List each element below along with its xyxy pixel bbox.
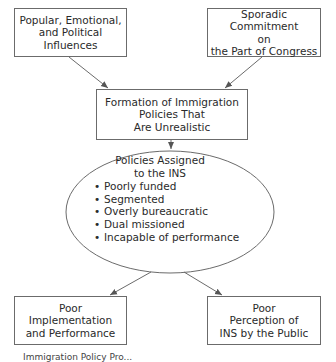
bullet-icon: • bbox=[94, 218, 100, 231]
node-label: Poor Implementation and Performance bbox=[26, 302, 116, 340]
node-poor-perception: Poor Perception of INS by the Public bbox=[207, 296, 321, 345]
node-sporadic-commitment: Sporadic Commitment on the Part of Congr… bbox=[207, 8, 321, 57]
list-item: •Segmented bbox=[94, 193, 254, 206]
bullet-icon: • bbox=[94, 205, 100, 218]
arrow-policies-to-perception bbox=[184, 272, 222, 295]
arrow-commitment-to-formation bbox=[225, 57, 262, 88]
list-item: •Incapable of performance bbox=[94, 231, 254, 244]
node-label: Popular, Emotional, and Political Influe… bbox=[19, 14, 121, 52]
arrow-influences-to-formation bbox=[69, 57, 108, 88]
list-item: •Overly bureaucratic bbox=[94, 205, 254, 218]
ellipse-title: Policies Assigned to the INS bbox=[66, 154, 254, 179]
list-item: •Dual missioned bbox=[94, 218, 254, 231]
node-label: Formation of Immigration Policies That A… bbox=[105, 96, 239, 134]
policy-list: •Poorly funded •Segmented •Overly bureau… bbox=[66, 180, 254, 243]
node-poor-implementation: Poor Implementation and Performance bbox=[14, 296, 127, 345]
arrow-policies-to-implementation bbox=[110, 272, 151, 295]
node-label: Sporadic Commitment on the Part of Congr… bbox=[208, 8, 320, 58]
bullet-icon: • bbox=[94, 180, 100, 193]
list-item: •Poorly funded bbox=[94, 180, 254, 193]
node-label: Poor Perception of INS by the Public bbox=[220, 302, 309, 340]
node-policies-assigned: Policies Assigned to the INS •Poorly fun… bbox=[66, 154, 254, 243]
node-popular-influences: Popular, Emotional, and Political Influe… bbox=[14, 8, 127, 57]
bullet-icon: • bbox=[94, 193, 100, 206]
bullet-icon: • bbox=[94, 231, 100, 244]
node-formation-unrealistic: Formation of Immigration Policies That A… bbox=[96, 89, 248, 140]
figure-caption: Immigration Policy Pro... bbox=[23, 352, 132, 362]
